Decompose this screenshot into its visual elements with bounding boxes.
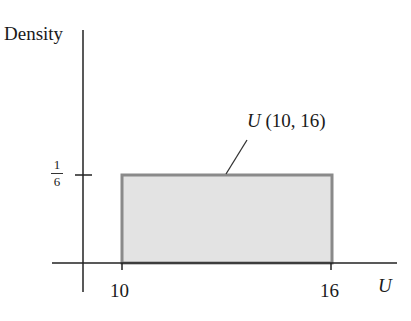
- fraction-denominator: 6: [54, 174, 61, 189]
- uniform-density-rect: [122, 175, 332, 263]
- annotation-params: (10, 16): [261, 110, 326, 131]
- fraction-numerator: 1: [54, 157, 61, 172]
- annotation-variable: U: [247, 110, 261, 131]
- x-axis-label: U: [378, 275, 392, 297]
- x-tick-label-10: 10: [110, 280, 129, 302]
- annotation-leader: [226, 140, 247, 174]
- distribution-annotation: U (10, 16): [247, 110, 326, 132]
- y-axis-label: Density: [4, 23, 63, 45]
- y-tick-label: 1 6: [50, 158, 64, 189]
- x-tick-label-16: 16: [320, 280, 339, 302]
